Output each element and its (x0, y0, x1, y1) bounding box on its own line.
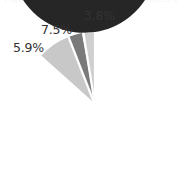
pie-svg (0, 0, 183, 185)
slice-label-5-9: 5.9% (13, 40, 44, 55)
pie-plot-area (0, 0, 183, 185)
pie-chart-figure: Figure — distribution of responses (%) 3… (0, 0, 183, 185)
slice-label-3-8: 3.8% (84, 8, 115, 23)
slice-label-82-7: 82.7% (100, 127, 139, 142)
slice-label-7-5: 7.5% (41, 22, 72, 37)
